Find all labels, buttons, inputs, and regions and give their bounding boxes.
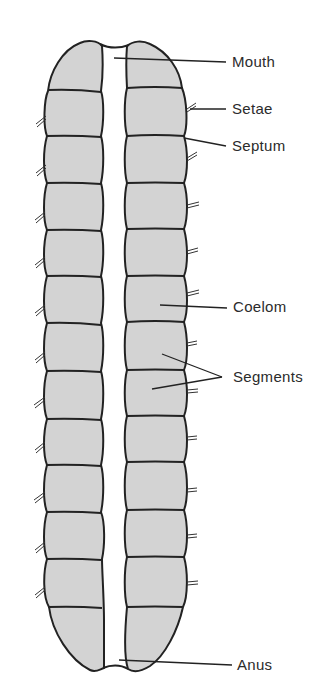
label-anus: Anus	[237, 657, 272, 673]
anus-membrane	[103, 666, 128, 670]
label-segments: Segments	[233, 369, 303, 385]
septum-leader	[184, 138, 226, 146]
label-mouth: Mouth	[232, 54, 275, 70]
mouth-membrane	[100, 44, 129, 48]
label-septum: Septum	[232, 138, 286, 154]
worm-diagram	[0, 0, 331, 693]
label-coelom: Coelom	[233, 299, 287, 315]
label-setae: Setae	[232, 101, 273, 117]
setae-right	[187, 103, 199, 585]
